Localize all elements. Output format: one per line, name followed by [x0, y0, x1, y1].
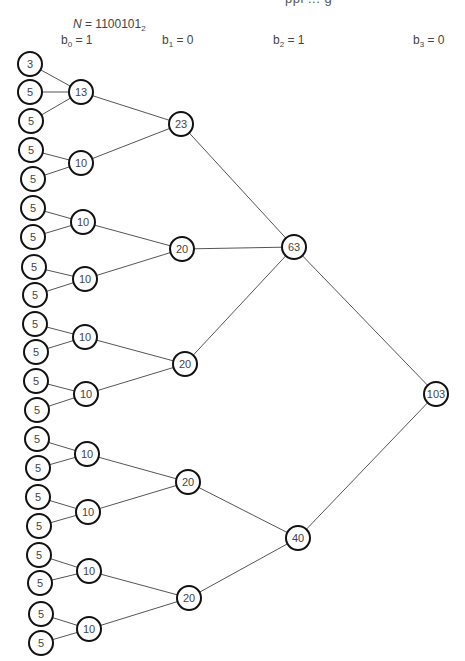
node-value: 10: [77, 216, 89, 228]
node-value: 23: [175, 118, 187, 130]
tree-node-A2: 10: [69, 151, 93, 175]
tree-node-C1: 63: [282, 235, 306, 259]
tree-node-L12: 5: [24, 369, 48, 393]
node-value: 5: [30, 202, 36, 214]
edge-C2-D1: [298, 394, 436, 538]
node-value: 10: [82, 506, 94, 518]
tree-node-L9: 5: [23, 283, 47, 307]
tree-node-L8: 5: [22, 255, 46, 279]
edge-A1-B1: [81, 92, 181, 124]
node-value: 5: [37, 577, 43, 589]
tree-node-L15: 5: [26, 456, 50, 480]
node-value: 13: [75, 86, 87, 98]
tree-node-C2: 40: [286, 526, 310, 550]
edge-A5-B3: [85, 337, 185, 364]
tree-node-B1: 23: [169, 112, 193, 136]
node-value: 20: [182, 476, 194, 488]
node-value: 20: [179, 358, 191, 370]
tree-node-B2: 20: [170, 237, 194, 261]
tree-node-L20: 5: [29, 602, 53, 626]
tree-node-L16: 5: [26, 485, 50, 509]
tree-node-A3: 10: [71, 210, 95, 234]
edge-A4-B2: [85, 249, 182, 279]
node-value: 103: [427, 388, 445, 400]
node-value: 10: [80, 388, 92, 400]
tree-node-L2: 5: [18, 80, 42, 104]
tree-node-L7: 5: [21, 225, 45, 249]
addition-tree-diagram: ppl ... g N = 11001012 b0 = 1b1 = 0b2 = …: [0, 0, 465, 661]
node-value: 20: [183, 592, 195, 604]
tree-node-A8: 10: [76, 500, 100, 524]
edge-A8-B4: [88, 482, 188, 512]
edge-C1-D1: [294, 247, 436, 394]
node-value: 5: [28, 144, 34, 156]
tree-node-L13: 5: [25, 398, 49, 422]
tree-node-L19: 5: [28, 571, 52, 595]
tree-node-L5: 5: [21, 167, 45, 191]
tree-node-A1: 13: [69, 80, 93, 104]
tree-node-A10: 10: [77, 617, 101, 641]
tree-node-L6: 5: [21, 196, 45, 220]
tree-node-L1: 3: [18, 52, 42, 76]
tree-edges: [30, 64, 436, 643]
node-value: 5: [32, 318, 38, 330]
tree-node-A5: 10: [73, 325, 97, 349]
tree-node-A7: 10: [75, 442, 99, 466]
tree-node-B5: 20: [177, 586, 201, 610]
edge-A2-B1: [81, 124, 181, 163]
tree-node-A9: 10: [77, 559, 101, 583]
tree-node-A6: 10: [74, 382, 98, 406]
node-value: 5: [35, 462, 41, 474]
edge-A3-B2: [83, 222, 182, 249]
node-value: 5: [27, 86, 33, 98]
edge-B2-C1: [182, 247, 294, 249]
edge-A10-B5: [89, 598, 189, 629]
node-value: 5: [33, 346, 39, 358]
node-value: 5: [34, 433, 40, 445]
tree-node-L11: 5: [24, 340, 48, 364]
tree-node-B4: 20: [176, 470, 200, 494]
node-value: 5: [33, 375, 39, 387]
node-value: 3: [27, 58, 33, 70]
tree-node-L10: 5: [23, 312, 47, 336]
node-value: 5: [34, 404, 40, 416]
tree-node-B3: 20: [173, 352, 197, 376]
node-value: 10: [75, 157, 87, 169]
node-value: 10: [81, 448, 93, 460]
tree-node-L14: 5: [25, 427, 49, 451]
node-value: 20: [176, 243, 188, 255]
node-value: 5: [38, 637, 44, 649]
node-value: 5: [36, 549, 42, 561]
node-value: 5: [36, 520, 42, 532]
edge-A9-B5: [89, 571, 189, 598]
tree-nodes: 3555555555555555555551310101010101010101…: [18, 52, 448, 655]
edge-B1-C1: [181, 124, 294, 247]
node-value: 10: [83, 623, 95, 635]
tree-node-L4: 5: [19, 138, 43, 162]
tree-node-L3: 5: [19, 109, 43, 133]
node-value: 5: [31, 261, 37, 273]
tree-node-L18: 5: [27, 543, 51, 567]
node-value: 5: [30, 231, 36, 243]
node-value: 40: [292, 532, 304, 544]
node-value: 5: [30, 173, 36, 185]
tree-node-D1: 103: [424, 382, 448, 406]
edge-A7-B4: [87, 454, 188, 482]
node-value: 10: [79, 331, 91, 343]
tree-node-L21: 5: [29, 631, 53, 655]
node-value: 63: [288, 241, 300, 253]
tree-graph: 3555555555555555555551310101010101010101…: [0, 0, 465, 661]
node-value: 5: [38, 608, 44, 620]
node-value: 10: [83, 565, 95, 577]
node-value: 5: [35, 491, 41, 503]
node-value: 5: [28, 115, 34, 127]
node-value: 5: [32, 289, 38, 301]
tree-node-A4: 10: [73, 267, 97, 291]
edge-A6-B3: [86, 364, 185, 394]
edge-B3-C1: [185, 247, 294, 364]
edge-B4-C2: [188, 482, 298, 538]
tree-node-L17: 5: [27, 514, 51, 538]
edge-B5-C2: [189, 538, 298, 598]
node-value: 10: [79, 273, 91, 285]
